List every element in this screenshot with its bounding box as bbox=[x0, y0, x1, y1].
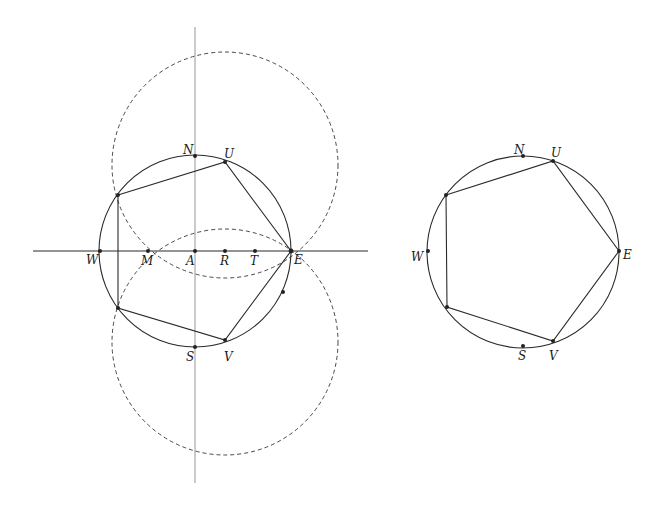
pentagon-construction-diagram: N U W M A R T E S V N U W E S V bbox=[0, 0, 662, 508]
right-point-E bbox=[617, 249, 621, 253]
label-M: M bbox=[140, 254, 154, 268]
right-point-V bbox=[551, 339, 555, 343]
point-lower-left-vertex bbox=[116, 306, 120, 310]
right-label-N: N bbox=[513, 143, 525, 157]
point-N bbox=[193, 154, 197, 158]
upper-dashed-circle bbox=[112, 52, 338, 278]
label-S: S bbox=[186, 350, 194, 364]
point-S bbox=[193, 345, 197, 349]
point-V bbox=[223, 338, 227, 342]
right-label-W: W bbox=[411, 250, 425, 264]
right-point-W bbox=[426, 249, 430, 253]
label-R: R bbox=[219, 254, 229, 268]
right-label-S: S bbox=[518, 349, 526, 363]
label-A: A bbox=[185, 254, 195, 268]
right-point-S bbox=[521, 344, 525, 348]
point-upper-left-vertex bbox=[116, 193, 120, 197]
right-pentagon bbox=[446, 161, 619, 341]
point-arc-mark bbox=[281, 290, 285, 294]
point-R bbox=[223, 249, 227, 253]
point-A bbox=[193, 249, 197, 253]
label-N: N bbox=[182, 143, 194, 157]
label-W: W bbox=[86, 253, 100, 267]
point-M bbox=[146, 249, 150, 253]
label-T: T bbox=[250, 254, 259, 268]
left-construction: N U W M A R T E S V bbox=[33, 27, 368, 483]
label-V: V bbox=[224, 350, 234, 364]
point-E bbox=[289, 249, 294, 254]
right-circle bbox=[427, 156, 619, 348]
point-W bbox=[98, 249, 102, 253]
label-E: E bbox=[293, 253, 303, 267]
right-point-upper-left-vertex bbox=[444, 193, 448, 197]
right-pentagon-figure: N U W E S V bbox=[411, 143, 632, 363]
point-T bbox=[253, 249, 257, 253]
label-U: U bbox=[224, 147, 235, 161]
right-label-E: E bbox=[622, 248, 632, 262]
right-point-lower-left-vertex bbox=[445, 305, 449, 309]
right-label-U: U bbox=[551, 146, 562, 160]
right-label-V: V bbox=[549, 349, 559, 363]
